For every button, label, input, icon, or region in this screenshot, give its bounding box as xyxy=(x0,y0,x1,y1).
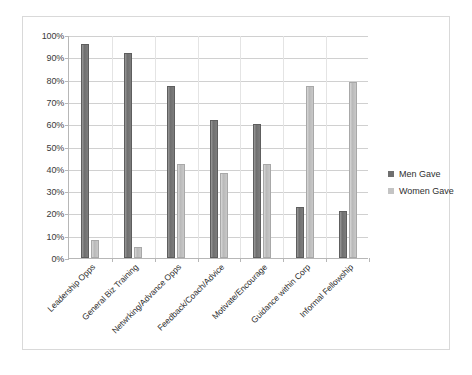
bar-women-gave xyxy=(349,82,357,258)
category-separator xyxy=(155,36,156,258)
bar-men-gave xyxy=(81,44,89,258)
x-axis-tick-mark xyxy=(240,258,241,262)
x-axis-tick-mark xyxy=(369,258,370,262)
bar-women-gave xyxy=(306,86,314,258)
legend-item[interactable]: Men Gave xyxy=(388,169,454,179)
category-separator xyxy=(326,36,327,258)
gridline xyxy=(69,58,368,59)
y-axis-tick-label: 70% xyxy=(47,98,64,108)
gridline xyxy=(69,237,368,238)
y-axis-tick-mark xyxy=(65,36,69,37)
x-axis-tick-mark xyxy=(155,258,156,262)
y-axis-tick-label: 100% xyxy=(42,31,64,41)
y-axis-tick-mark xyxy=(65,103,69,104)
chart-legend: Men GaveWomen Gave xyxy=(388,169,454,203)
bar-men-gave xyxy=(167,86,175,258)
x-axis-tick-mark xyxy=(198,258,199,262)
y-axis-tick-label: 40% xyxy=(47,165,64,175)
legend-swatch-icon xyxy=(388,188,394,194)
bar-women-gave xyxy=(134,247,142,258)
x-axis-tick-mark xyxy=(326,258,327,262)
bar-women-gave xyxy=(91,240,99,258)
bar-men-gave xyxy=(210,120,218,258)
gridline xyxy=(69,81,368,82)
y-axis-tick-mark xyxy=(65,58,69,59)
y-axis-tick-mark xyxy=(65,148,69,149)
category-separator xyxy=(112,36,113,258)
category-separator xyxy=(198,36,199,258)
legend-item-label: Men Gave xyxy=(399,169,441,179)
bar-women-gave xyxy=(220,173,228,258)
y-axis-tick-label: 10% xyxy=(47,232,64,242)
gridline xyxy=(69,214,368,215)
gridline xyxy=(69,125,368,126)
plot-area: 0%10%20%30%40%50%60%70%80%90%100% Leader… xyxy=(68,36,368,259)
y-axis-tick-label: 80% xyxy=(47,76,64,86)
y-axis-tick-mark xyxy=(65,192,69,193)
bar-men-gave xyxy=(253,124,261,258)
x-axis-tick-mark xyxy=(283,258,284,262)
y-axis-tick-mark xyxy=(65,237,69,238)
bar-men-gave xyxy=(339,211,347,258)
gridline xyxy=(69,148,368,149)
y-axis-tick-label: 20% xyxy=(47,209,64,219)
y-axis-tick-mark xyxy=(65,259,69,260)
y-axis-tick-label: 0% xyxy=(51,254,64,264)
gridline xyxy=(69,103,368,104)
bar-men-gave xyxy=(296,207,304,258)
x-axis-tick-mark xyxy=(112,258,113,262)
legend-item[interactable]: Women Gave xyxy=(388,186,454,196)
y-axis-tick-label: 90% xyxy=(47,53,64,63)
y-axis-tick-label: 30% xyxy=(47,187,64,197)
gridline xyxy=(69,192,368,193)
category-separator xyxy=(240,36,241,258)
bar-women-gave xyxy=(177,164,185,258)
chart-frame: 0%10%20%30%40%50%60%70%80%90%100% Leader… xyxy=(22,16,450,350)
gridline xyxy=(69,36,368,37)
bar-men-gave xyxy=(124,53,132,258)
legend-item-label: Women Gave xyxy=(399,186,454,196)
y-axis-tick-mark xyxy=(65,170,69,171)
y-axis-tick-mark xyxy=(65,125,69,126)
category-separator xyxy=(283,36,284,258)
y-axis-tick-mark xyxy=(65,214,69,215)
bar-women-gave xyxy=(263,164,271,258)
legend-swatch-icon xyxy=(388,171,394,177)
y-axis-tick-label: 50% xyxy=(47,143,64,153)
gridline xyxy=(69,170,368,171)
y-axis-tick-label: 60% xyxy=(47,120,64,130)
y-axis-tick-mark xyxy=(65,81,69,82)
